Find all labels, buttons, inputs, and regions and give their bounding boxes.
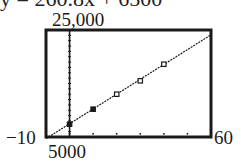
x-tick [116,133,118,135]
data-point-marker [91,107,95,111]
x-tick [187,133,189,135]
x-tick [163,133,165,135]
data-point-marker [67,122,71,126]
data-point-marker [162,62,166,66]
x-tick [139,133,141,135]
data-point-marker [138,79,142,83]
calculator-graph-window [0,0,241,163]
x-tick [69,133,71,135]
x-tick [92,133,94,135]
data-point-marker [115,92,119,96]
